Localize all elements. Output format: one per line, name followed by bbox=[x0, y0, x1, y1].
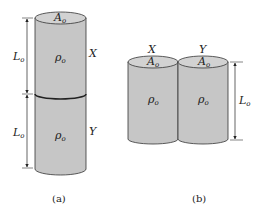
caption-a: (a) bbox=[52, 193, 66, 204]
figure-a: Ao Lo ρo X Lo ρo Y (a) bbox=[12, 11, 98, 204]
length-label-y: Lo bbox=[12, 126, 25, 140]
cylinder-name-y: Y bbox=[89, 125, 98, 138]
cylinder-name-x: X bbox=[88, 47, 98, 60]
diagram: Ao Lo ρo X Lo ρo Y (a) X Y Ao Ao ρo ρo L… bbox=[0, 0, 256, 220]
length-label-x: Lo bbox=[12, 50, 25, 64]
figure-b: X Y Ao Ao ρo ρo Lo (b) bbox=[128, 43, 251, 204]
cylinder-stack-body bbox=[35, 18, 86, 175]
length-label: Lo bbox=[238, 94, 251, 108]
caption-b: (b) bbox=[192, 193, 206, 204]
